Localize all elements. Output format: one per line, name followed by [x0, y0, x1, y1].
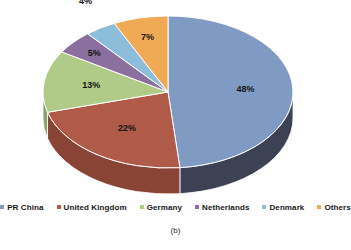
legend-item[interactable]: United Kingdom: [57, 203, 127, 212]
legend-item-label: Netherlands: [202, 203, 249, 212]
figure-caption: (b): [0, 226, 351, 235]
legend-swatch-icon: [262, 205, 266, 209]
legend-item[interactable]: Others: [317, 203, 350, 212]
legend-item[interactable]: Germany: [140, 203, 182, 212]
pie-top-faces: [43, 16, 293, 168]
legend-swatch-icon: [317, 205, 321, 209]
legend-item-label: Denmark: [269, 203, 304, 212]
legend-item[interactable]: Denmark: [262, 203, 304, 212]
pie-slice-value-label: 5%: [88, 48, 101, 58]
legend-item[interactable]: PR China: [0, 203, 43, 212]
legend-item-label: United Kingdom: [64, 203, 127, 212]
legend-item[interactable]: Netherlands: [195, 203, 249, 212]
pie-slice-value-label: 22%: [118, 123, 136, 133]
legend-swatch-icon: [0, 205, 4, 209]
legend-item-label: PR China: [7, 203, 43, 212]
legend-item-label: Others: [324, 203, 350, 212]
legend-item-label: Germany: [147, 203, 182, 212]
legend-swatch-icon: [57, 205, 61, 209]
pie-slice-value-label: 4%: [79, 0, 92, 6]
pie-chart-svg: 48%22%13%5%4%7%: [0, 0, 351, 199]
pie-chart-figure: 48%22%13%5%4%7% PR ChinaUnited KingdomGe…: [0, 0, 351, 250]
legend-swatch-icon: [140, 205, 144, 209]
pie-slice-value-label: 13%: [82, 80, 100, 90]
pie-slice-value-label: 7%: [141, 32, 154, 42]
legend-swatch-icon: [195, 205, 199, 209]
chart-legend: PR ChinaUnited KingdomGermanyNetherlands…: [0, 199, 351, 215]
pie-slice-value-label: 48%: [236, 84, 254, 94]
